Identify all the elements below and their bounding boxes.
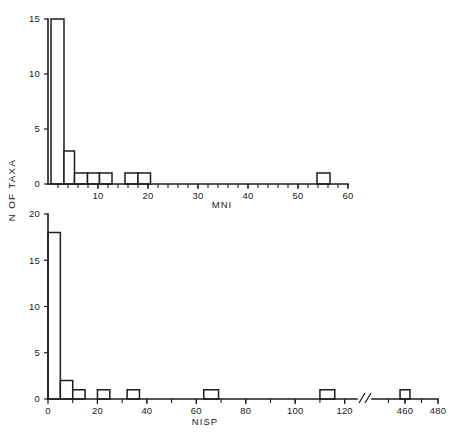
x-tick-label: 460 (397, 405, 413, 416)
histogram-bar (125, 173, 138, 184)
y-tick-label: 20 (29, 208, 40, 219)
nisp-y-tick-labels: 05101520 (29, 208, 40, 404)
x-tick-label: 60 (191, 405, 202, 416)
shared-y-axis-title: N OF TAXA (6, 159, 17, 222)
histogram-bar (51, 19, 64, 184)
x-tick-label: 120 (336, 405, 352, 416)
nisp-x-axis-title: NISP (192, 416, 219, 427)
x-tick-label: 40 (243, 190, 254, 201)
histogram-bar (127, 390, 139, 399)
histogram-bar (97, 390, 109, 399)
histogram-bar (64, 151, 75, 184)
histogram-bar (75, 173, 88, 184)
x-tick-label: 10 (93, 190, 104, 201)
nisp-bars (48, 233, 410, 400)
y-tick-label: 0 (35, 393, 40, 404)
histogram-bar (138, 173, 151, 184)
y-tick-label: 15 (29, 13, 40, 24)
histogram-bar (400, 390, 410, 399)
histogram-bar (88, 173, 100, 184)
mni-y-tick-labels: 051015 (29, 13, 40, 189)
mni-bars (51, 19, 330, 184)
mni-histogram-panel: 051015 102030405060 MNI (29, 13, 353, 210)
y-tick-label: 10 (29, 301, 40, 312)
mni-x-axis-title: MNI (212, 199, 233, 210)
x-tick-label: 30 (193, 190, 204, 201)
histogram-bar (48, 233, 60, 400)
x-tick-label: 20 (143, 190, 154, 201)
nisp-axis-break-icon (359, 393, 371, 403)
histogram-bar (320, 390, 335, 399)
histogram-bar (73, 390, 85, 399)
y-tick-label: 5 (35, 347, 40, 358)
histogram-bar (317, 173, 330, 184)
y-tick-label: 10 (29, 68, 40, 79)
x-tick-label: 60 (343, 190, 354, 201)
two-histogram-figure: 051015 102030405060 MNI N OF TAXA 051015… (0, 0, 459, 437)
x-tick-label: 40 (141, 405, 152, 416)
y-tick-label: 0 (35, 178, 40, 189)
nisp-x-tick-labels: 020406080100120460480 (45, 405, 446, 416)
y-tick-label: 5 (35, 123, 40, 134)
histogram-bar (60, 381, 72, 400)
x-tick-label: 80 (240, 405, 251, 416)
histogram-bar (100, 173, 113, 184)
x-tick-label: 50 (293, 190, 304, 201)
histogram-bar (204, 390, 219, 399)
figure-panel: 051015 102030405060 MNI N OF TAXA 051015… (0, 0, 459, 437)
x-tick-label: 0 (45, 405, 50, 416)
y-tick-label: 15 (29, 255, 40, 266)
x-tick-label: 20 (92, 405, 103, 416)
x-tick-label: 480 (430, 405, 446, 416)
nisp-histogram-panel: 05101520 020406080100120460480 NISP (29, 208, 446, 427)
x-tick-label: 100 (287, 405, 303, 416)
